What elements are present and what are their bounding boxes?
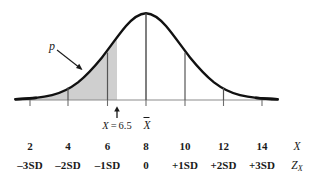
- z-tick-label-plus-3sd: +3SD: [249, 158, 275, 172]
- x-tick-label-6: 6: [105, 139, 111, 153]
- z-tick-label-minus-2sd: –2SD: [55, 158, 80, 172]
- z-axis-name-subscript: X: [298, 164, 303, 173]
- z-tick-label-zero: 0: [143, 158, 149, 172]
- x-tick-label-2: 2: [27, 139, 33, 153]
- probability-p-label: p: [49, 39, 55, 53]
- z-tick-label-plus-1sd: +1SD: [172, 158, 198, 172]
- z-axis-name: ZX: [291, 158, 302, 176]
- mean-symbol-letter: X: [143, 118, 150, 132]
- distribution-chart-svg: [0, 0, 319, 183]
- normal-distribution-figure: p X=6.5 X 2 4 6 8 10 12 14 X –3SD –2SD –…: [0, 0, 319, 183]
- x-axis-label-row: 2 4 6 8 10 12 14 X: [0, 139, 319, 155]
- x-value-callout: X=6.5: [102, 119, 131, 132]
- x-value-variable: X: [102, 120, 108, 131]
- x-tick-label-8: 8: [143, 139, 149, 153]
- x-value-pointer-arrow: [114, 106, 120, 118]
- z-tick-label-minus-1sd: –1SD: [95, 158, 120, 172]
- x-tick-label-12: 12: [218, 139, 229, 153]
- x-tick-label-10: 10: [179, 139, 190, 153]
- z-tick-label-plus-2sd: +2SD: [210, 158, 236, 172]
- axis-tick-marks: [30, 100, 262, 106]
- x-tick-label-4: 4: [65, 139, 71, 153]
- p-annotation-arrow: [57, 50, 83, 70]
- x-tick-label-14: 14: [256, 139, 267, 153]
- z-axis-label-row: –3SD –2SD –1SD 0 +1SD +2SD +3SD ZX: [0, 158, 319, 174]
- x-axis-name: X: [293, 139, 300, 153]
- shaded-tail-region: [17, 40, 118, 100]
- mean-symbol-label: X: [143, 118, 150, 132]
- x-value-equals-sign: =: [111, 120, 117, 131]
- z-tick-label-minus-3sd: –3SD: [17, 158, 42, 172]
- x-value-number: 6.5: [119, 120, 132, 131]
